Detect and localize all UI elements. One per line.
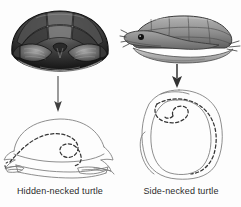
diagram-hidden-necked xyxy=(0,110,120,182)
turtle-photo-hidden-necked xyxy=(0,2,120,74)
panel-hidden-necked: Hidden-necked turtle xyxy=(0,0,120,207)
diagram-side-necked xyxy=(121,86,241,182)
arrow-hidden-necked xyxy=(0,74,120,114)
panel-side-necked: Side-necked turtle xyxy=(121,0,241,207)
caption-hidden-necked: Hidden-necked turtle xyxy=(0,186,120,196)
caption-side-necked: Side-necked turtle xyxy=(121,186,241,196)
turtle-neck-retraction-figure: Hidden-necked turtle xyxy=(0,0,241,207)
